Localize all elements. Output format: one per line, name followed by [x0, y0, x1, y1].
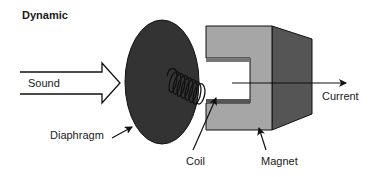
dynamic-microphone-diagram: Dynamic Sound Diaphragm Coil Magnet Curr…: [0, 0, 377, 177]
magnet-pointer-arrow: [259, 128, 266, 150]
label-magnet: Magnet: [261, 156, 298, 167]
magnet-side-face: [272, 26, 312, 130]
diagram-title: Dynamic: [22, 10, 68, 21]
magnet-front-face: [206, 26, 272, 130]
magnet-notch-shadow-bottom: [206, 99, 250, 103]
label-current: Current: [322, 91, 359, 102]
diaphragm-pointer-arrow: [112, 127, 132, 138]
label-sound: Sound: [28, 78, 60, 89]
magnet-notch-shadow: [206, 58, 250, 62]
label-diaphragm: Diaphragm: [50, 130, 104, 141]
diaphragm-shape: [125, 20, 199, 144]
label-coil: Coil: [186, 156, 205, 167]
